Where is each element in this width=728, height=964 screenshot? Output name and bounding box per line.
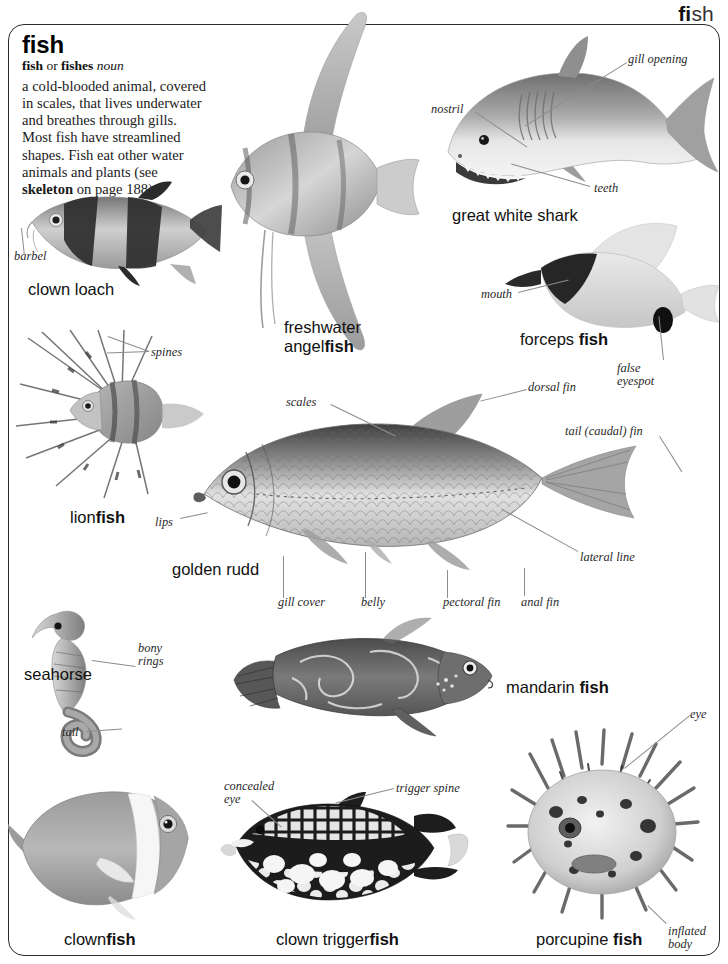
caption-lionfish: lionfish	[70, 508, 125, 527]
definition-part-1: a cold-blooded animal, covered in scales…	[22, 78, 206, 180]
label-barbel: barbel	[14, 250, 46, 264]
caption-golden-rudd-text: golden rudd	[172, 560, 259, 578]
freshwater-angelfish-illustration	[205, 8, 420, 358]
leader-gill-cover	[283, 556, 284, 598]
label-tail: tail	[62, 726, 79, 740]
forceps-fish-illustration	[505, 222, 720, 347]
caption-triggerfish-bold: fish	[370, 930, 399, 948]
dictionary-entry: fish fish or fishes noun a cold-blooded …	[22, 32, 208, 198]
inflection-conjunction: or	[43, 58, 61, 73]
inflection-singular: fish	[22, 58, 43, 73]
label-gill-opening: gill opening	[628, 53, 688, 67]
caption-mandarin: mandarin	[506, 678, 579, 696]
label-bony-rings: bony rings	[138, 642, 188, 669]
leader-pectoral-fin	[447, 570, 448, 598]
caption-mandarin-fish: mandarin fish	[506, 678, 609, 697]
label-eyespot: eyespot	[617, 374, 654, 388]
caption-freshwater: freshwater	[284, 318, 361, 336]
label-trigger-spine: trigger spine	[396, 782, 460, 796]
label-rings: rings	[138, 654, 163, 668]
label-concealed: concealed	[224, 779, 274, 793]
label-belly: belly	[361, 596, 385, 610]
caption-seahorse: seahorse	[24, 665, 92, 684]
inflections: fish or fishes noun	[22, 58, 208, 75]
running-head-bold: fi	[678, 2, 691, 25]
caption-forceps: forceps	[520, 330, 579, 348]
caption-porcupine-fish: porcupine fish	[536, 930, 642, 949]
label-false-eyespot: false eyespot	[617, 362, 675, 389]
label-eye: eye	[690, 708, 707, 722]
leader-belly	[365, 552, 366, 598]
caption-angel: angel	[284, 337, 324, 355]
caption-golden-rudd: golden rudd	[172, 560, 259, 579]
clownfish-illustration	[8, 780, 193, 922]
lionfish-illustration	[12, 330, 212, 505]
caption-forceps-fish-bold: fish	[579, 330, 608, 348]
dictionary-page: fish fish fish or fishes noun a cold-blo…	[0, 0, 728, 964]
label-nostril: nostril	[431, 103, 463, 117]
label-pectoral-fin: pectoral fin	[443, 596, 500, 610]
label-inflated-body: inflated body	[668, 925, 720, 952]
part-of-speech: noun	[97, 58, 124, 73]
label-gill-cover: gill cover	[278, 596, 325, 610]
caption-seahorse-text: seahorse	[24, 665, 92, 683]
caption-lionfish-bold: fish	[96, 508, 125, 526]
clown-triggerfish-illustration	[218, 790, 468, 920]
caption-mandarin-fish-bold: fish	[579, 678, 608, 696]
porcupine-fish-illustration	[508, 728, 698, 924]
label-eye-concealed: eye	[224, 792, 241, 806]
caption-angelfish-bold: fish	[324, 337, 353, 355]
caption-clown-loach-text: clown loach	[28, 280, 114, 298]
label-lateral-line: lateral line	[580, 551, 635, 565]
caption-clownfish-bold: fish	[106, 930, 135, 948]
label-scales: scales	[286, 396, 316, 410]
label-false: false	[617, 361, 640, 375]
label-tail-caudal-fin: tail (caudal) fin	[565, 425, 643, 439]
running-head: fish	[678, 2, 714, 26]
caption-clown-loach: clown loach	[28, 280, 114, 299]
label-anal-fin: anal fin	[521, 596, 559, 610]
caption-porcupine: porcupine	[536, 930, 613, 948]
leader-anal-fin	[524, 568, 525, 596]
inflection-plural: fishes	[61, 58, 93, 73]
caption-porcupine-fish-bold: fish	[613, 930, 642, 948]
golden-rudd-illustration	[190, 390, 640, 570]
mandarin-fish-illustration	[232, 618, 494, 736]
caption-freshwater-angelfish: freshwater angelfish	[284, 318, 394, 356]
caption-clown-trigger: clown trigger	[276, 930, 370, 948]
page-title: fish	[22, 32, 208, 57]
caption-clownfish: clownfish	[64, 930, 136, 949]
label-teeth: teeth	[594, 182, 618, 196]
caption-clown-triggerfish: clown triggerfish	[276, 930, 399, 949]
label-mouth: mouth	[481, 288, 512, 302]
caption-forceps-fish: forceps fish	[520, 330, 608, 349]
label-body: body	[668, 937, 692, 951]
running-head-light: sh	[691, 2, 714, 25]
label-bony: bony	[138, 641, 162, 655]
label-lips: lips	[155, 516, 173, 530]
caption-lion: lion	[70, 508, 96, 526]
label-dorsal-fin: dorsal fin	[528, 381, 576, 395]
caption-clown: clown	[64, 930, 106, 948]
label-spines: spines	[151, 346, 182, 360]
label-inflated: inflated	[668, 924, 706, 938]
